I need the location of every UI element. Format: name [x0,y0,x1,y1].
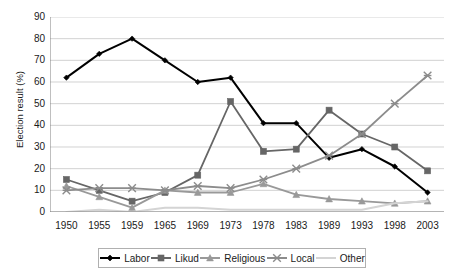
marker-square [195,172,201,178]
legend-label: Religious [224,253,265,264]
y-tick-label: 50 [19,99,45,109]
marker-square [326,107,332,113]
y-tick-label: 80 [19,34,45,44]
marker-square [392,144,398,150]
legend-item-local[interactable]: Local [266,252,315,264]
legend-item-likud[interactable]: Likud [150,252,199,264]
legend-item-other[interactable]: Other [315,252,365,264]
y-tick-label: 90 [19,12,45,22]
legend-item-labor[interactable]: Labor [99,252,150,264]
marker-square [158,255,164,261]
election-result-line-chart: Election result (%) 0102030405060708090 … [0,0,458,276]
gridlines [50,17,444,212]
series-layer [63,36,432,212]
y-tick-label: 0 [19,207,45,217]
legend-key-line-icon [315,252,337,264]
legend-key-diamond-icon [99,252,121,264]
legend-key-cross-icon [266,252,288,264]
marker-square [228,99,234,105]
chart-legend: LaborLikudReligiousLocalOther [98,248,366,268]
marker-square [425,168,431,174]
legend-label: Likud [175,253,199,264]
legend-key-square-icon [150,252,172,264]
y-tick-label: 30 [19,142,45,152]
y-tick-label: 70 [19,55,45,65]
marker-cross [424,72,432,80]
legend-key-triangle-icon [199,252,221,264]
marker-square [260,148,266,154]
marker-cross [391,100,399,108]
y-tick-label: 40 [19,120,45,130]
series-line [66,39,427,193]
plot-area [50,17,444,212]
y-tick-label: 60 [19,77,45,87]
marker-square [129,198,135,204]
marker-cross [273,254,281,262]
y-tick-label: 10 [19,185,45,195]
plot-svg [50,17,444,212]
legend-item-religious[interactable]: Religious [199,252,265,264]
legend-label: Local [291,253,315,264]
series-religious [63,180,431,210]
x-tick-label: 2003 [405,221,451,231]
marker-square [63,177,69,183]
series-line [66,102,427,202]
marker-cross [292,165,300,173]
legend-label: Other [340,253,365,264]
legend-label: Labor [124,253,150,264]
y-tick-label: 20 [19,164,45,174]
marker-diamond [107,255,113,261]
series-line [66,76,427,191]
marker-square [293,146,299,152]
marker-cross [128,184,136,192]
series-labor [64,36,431,195]
series-local [63,72,432,194]
